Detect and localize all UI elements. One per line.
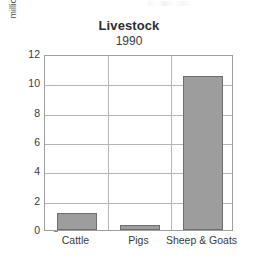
scan-artifact: [148, 1, 192, 6]
y-axis-tick-label: 12: [18, 49, 40, 60]
y-axis-tick-label: 4: [18, 166, 40, 177]
x-axis-tick-labels: CattlePigsSheep & Goats: [44, 234, 233, 252]
y-axis-tick-label: 6: [18, 137, 40, 148]
livestock-bar-chart: Livestock 1990 million head 024681012 Ca…: [0, 0, 258, 264]
gridline-vertical: [108, 56, 109, 230]
x-axis-tick-label: Sheep & Goats: [152, 234, 252, 246]
y-axis-tick-mark: [54, 231, 58, 232]
gridline-vertical: [171, 56, 172, 230]
y-axis-tick-label: 8: [18, 108, 40, 119]
y-axis-tick-labels: 024681012: [14, 0, 40, 264]
plot-area: [44, 55, 233, 231]
y-axis-tick-label: 10: [18, 78, 40, 89]
bar-pigs: [120, 225, 160, 230]
bar-sheep-goats: [183, 76, 223, 230]
y-axis-tick-label: 2: [18, 196, 40, 207]
bar-cattle: [57, 213, 97, 230]
